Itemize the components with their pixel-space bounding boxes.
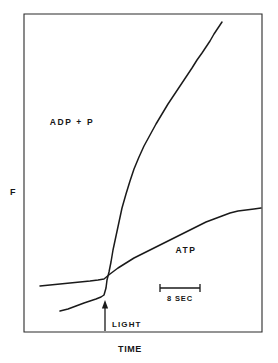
series-label-atp: ATP	[175, 245, 196, 255]
y-axis-label: F	[10, 187, 16, 197]
x-axis-label: TIME	[118, 344, 142, 354]
figure-container: ADP + P ATP LIGHT 8 SEC F TIME	[0, 0, 278, 363]
figure-background	[0, 0, 278, 363]
scale-bar-label: 8 SEC	[167, 294, 193, 303]
chart-canvas: ADP + P ATP LIGHT 8 SEC F TIME	[0, 0, 278, 363]
series-label-adp: ADP + P	[50, 117, 94, 127]
light-marker-label: LIGHT	[112, 320, 142, 329]
